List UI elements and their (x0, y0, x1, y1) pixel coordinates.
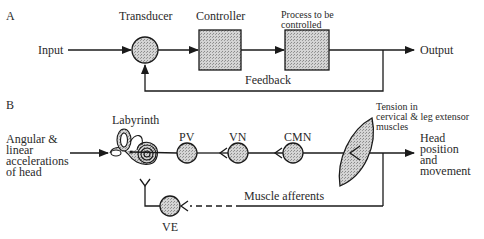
process-box (285, 30, 329, 70)
vn-label: VN (229, 131, 246, 143)
pv-label: PV (179, 131, 194, 143)
muscle-shape (339, 118, 373, 186)
feedback-label: Feedback (245, 74, 291, 86)
pv-node (177, 143, 197, 163)
muscle-afferents-label: Muscle afferents (244, 190, 324, 202)
synapse-ve (181, 201, 188, 211)
ve-node (160, 196, 180, 216)
controller-label: Controller (196, 10, 245, 22)
panel-a-label: A (6, 10, 15, 22)
panel-b-label: B (6, 99, 14, 111)
ve-label: VE (162, 221, 178, 233)
labyrinth-label: Labyrinth (112, 114, 159, 126)
angular-label-line4: of head (6, 166, 42, 178)
transducer-label: Transducer (119, 10, 173, 22)
labyrinth-icon (110, 129, 157, 164)
controller-box (199, 30, 241, 70)
vn-node (228, 143, 248, 163)
head-label-line4: movement (420, 165, 471, 177)
panel-a-diagram (68, 30, 414, 91)
output-label: Output (420, 44, 453, 56)
input-label: Input (38, 44, 63, 56)
transducer-node (132, 37, 158, 63)
cmn-node (283, 143, 303, 163)
tension-label-line3: muscles (376, 121, 408, 132)
process-label-line2: controlled (281, 19, 322, 30)
cmn-label: CMN (284, 131, 311, 143)
ve-y-terminal (140, 179, 150, 186)
